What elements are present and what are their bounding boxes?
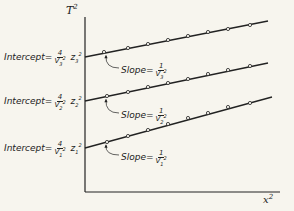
intercept-label-3: Intercept=4V32 z32 [4, 50, 82, 65]
slope-label-2: Slope=1V22 [121, 108, 169, 123]
factor-sup: 2 [78, 142, 81, 148]
intercept-prefix: Intercept [4, 96, 45, 106]
data-point [206, 72, 209, 75]
data-point [226, 27, 229, 30]
slope-fraction: 1V32 [155, 63, 168, 78]
slope-leader-arrow [106, 56, 119, 68]
fraction-denominator: V12 [155, 158, 168, 165]
arrowhead-icon [104, 144, 107, 148]
data-point [226, 68, 229, 71]
series-line-line-2 [85, 63, 268, 101]
x-axis-label-sup: 2 [269, 193, 273, 201]
series-line-line-3 [85, 21, 268, 57]
data-point [105, 140, 108, 143]
data-point [248, 101, 251, 104]
equals-sign: = [45, 143, 53, 153]
slope-fraction: 1V12 [155, 150, 168, 165]
data-point [105, 94, 108, 97]
data-point [206, 111, 209, 114]
den-sub: 1 [59, 152, 62, 158]
fraction-denominator: V32 [53, 58, 66, 65]
x-axis-label: x2 [263, 194, 273, 205]
intercept-fraction: 4V12 [53, 141, 66, 156]
den-sub: 3 [160, 74, 163, 80]
equals-sign: = [146, 110, 154, 120]
intercept-label-1: Intercept=4V12 z12 [4, 141, 82, 156]
den-sup: 2 [164, 155, 167, 161]
equals-sign: = [146, 65, 154, 75]
slope-prefix: Slope [121, 110, 146, 120]
equals-sign: = [45, 52, 53, 62]
slope-leader-arrow [106, 100, 119, 113]
factor-sub: 2 [75, 102, 78, 108]
slope-prefix: Slope [121, 152, 146, 162]
data-point [146, 128, 149, 131]
data-point [166, 38, 169, 41]
intercept-fraction: 4V32 [53, 50, 66, 65]
series-points [102, 23, 251, 143]
data-point [186, 77, 189, 80]
den-sub: 2 [160, 119, 163, 125]
arrowhead-icon [104, 55, 107, 59]
factor-sup: 2 [78, 51, 81, 57]
den-sub: 2 [59, 105, 62, 111]
data-point [186, 34, 189, 37]
den-sup: 2 [62, 55, 65, 61]
intercept-fraction: 4V22 [53, 94, 66, 109]
data-point [248, 64, 251, 67]
fraction-denominator: V12 [53, 149, 66, 156]
den-sup: 2 [164, 68, 167, 74]
slope-fraction: 1V22 [155, 108, 168, 123]
intercept-prefix: Intercept [4, 143, 45, 153]
data-point [102, 50, 105, 53]
factor-sub: 1 [75, 149, 78, 155]
equals-sign: = [45, 96, 53, 106]
data-point [226, 105, 229, 108]
data-point [126, 134, 129, 137]
fraction-denominator: V22 [53, 102, 66, 109]
data-point [206, 30, 209, 33]
data-point [146, 85, 149, 88]
data-point [166, 81, 169, 84]
data-point [126, 90, 129, 93]
slope-label-3: Slope=1V32 [121, 63, 169, 78]
arrowhead-icon [104, 99, 107, 103]
den-sup: 2 [62, 146, 65, 152]
intercept-prefix: Intercept [4, 52, 45, 62]
data-point [186, 116, 189, 119]
fraction-denominator: V22 [155, 116, 168, 123]
slope-prefix: Slope [121, 65, 146, 75]
data-point [248, 23, 251, 26]
factor-sup: 2 [78, 95, 81, 101]
slope-label-1: Slope=1V12 [121, 150, 169, 165]
factor-sub: 3 [75, 58, 78, 64]
y-axis-label-sup: 2 [73, 3, 77, 11]
equals-sign: = [146, 152, 154, 162]
slope-leader-arrow [106, 145, 119, 155]
series-lines [85, 21, 272, 148]
intercept-label-2: Intercept=4V22 z22 [4, 94, 82, 109]
den-sub: 1 [160, 161, 163, 167]
data-point [146, 42, 149, 45]
den-sup: 2 [62, 99, 65, 105]
series-line-line-1 [85, 97, 272, 148]
den-sup: 2 [164, 113, 167, 119]
data-point [126, 46, 129, 49]
y-axis-label: T2 [66, 4, 78, 17]
diagram-figure: T2 x2 Intercept=4V32 z32 Intercept=4V22 … [0, 0, 294, 211]
fraction-denominator: V32 [155, 71, 168, 78]
den-sub: 3 [59, 61, 62, 67]
